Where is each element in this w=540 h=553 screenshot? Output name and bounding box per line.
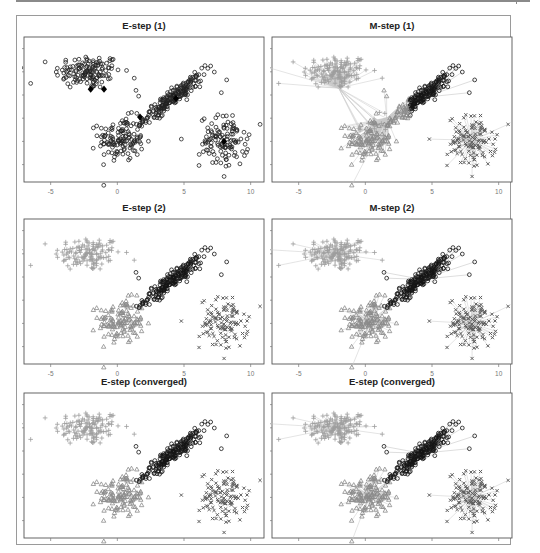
data-point bbox=[102, 365, 106, 369]
top-border-tick bbox=[516, 0, 517, 4]
data-point bbox=[102, 539, 106, 543]
scatter-plot-e2: E-step (2)-50510 bbox=[22, 198, 270, 383]
data-point bbox=[22, 421, 23, 426]
scatter-plot-m1: M-step (1)-50510 bbox=[270, 16, 518, 201]
panel-e2: E-step (2)-50510 bbox=[22, 198, 270, 383]
scatter-plot-m3: E-step (converged) bbox=[270, 372, 518, 553]
x-tick-label: 5 bbox=[182, 188, 186, 195]
panel-m1: M-step (1)-50510 bbox=[270, 16, 518, 201]
x-tick-label: 5 bbox=[430, 188, 434, 195]
data-point bbox=[270, 65, 271, 70]
data-point bbox=[22, 247, 23, 252]
x-tick-label: 0 bbox=[364, 188, 368, 195]
x-tick-label: 0 bbox=[116, 188, 120, 195]
top-border-line bbox=[16, 0, 530, 2]
panel-title: M-step (1) bbox=[370, 20, 415, 31]
x-tick-label: 10 bbox=[247, 188, 255, 195]
panel-e3: E-step (converged) bbox=[22, 372, 270, 553]
plot-box bbox=[24, 393, 264, 538]
panel-title: E-step (1) bbox=[122, 20, 165, 31]
panel-title: M-step (2) bbox=[370, 202, 415, 213]
scatter-plot-e3: E-step (converged) bbox=[22, 372, 270, 553]
x-tick-label: -5 bbox=[48, 188, 54, 195]
panel-title: E-step (converged) bbox=[349, 376, 435, 387]
panel-e1: E-step (1)-50510 bbox=[22, 16, 270, 201]
panel-title: E-step (2) bbox=[122, 202, 165, 213]
plot-box bbox=[24, 219, 264, 364]
panel-m2: M-step (2)-50510 bbox=[270, 198, 518, 383]
data-point bbox=[22, 66, 23, 70]
panel-title: E-step (converged) bbox=[101, 376, 187, 387]
data-point bbox=[270, 247, 271, 252]
x-tick-label: 10 bbox=[495, 188, 503, 195]
panel-m3: E-step (converged) bbox=[270, 372, 518, 553]
scatter-plot-e1: E-step (1)-50510 bbox=[22, 16, 270, 201]
x-tick-label: -5 bbox=[296, 188, 302, 195]
data-point bbox=[270, 421, 271, 426]
scatter-plot-m2: M-step (2)-50510 bbox=[270, 198, 518, 383]
data-point bbox=[102, 183, 106, 187]
